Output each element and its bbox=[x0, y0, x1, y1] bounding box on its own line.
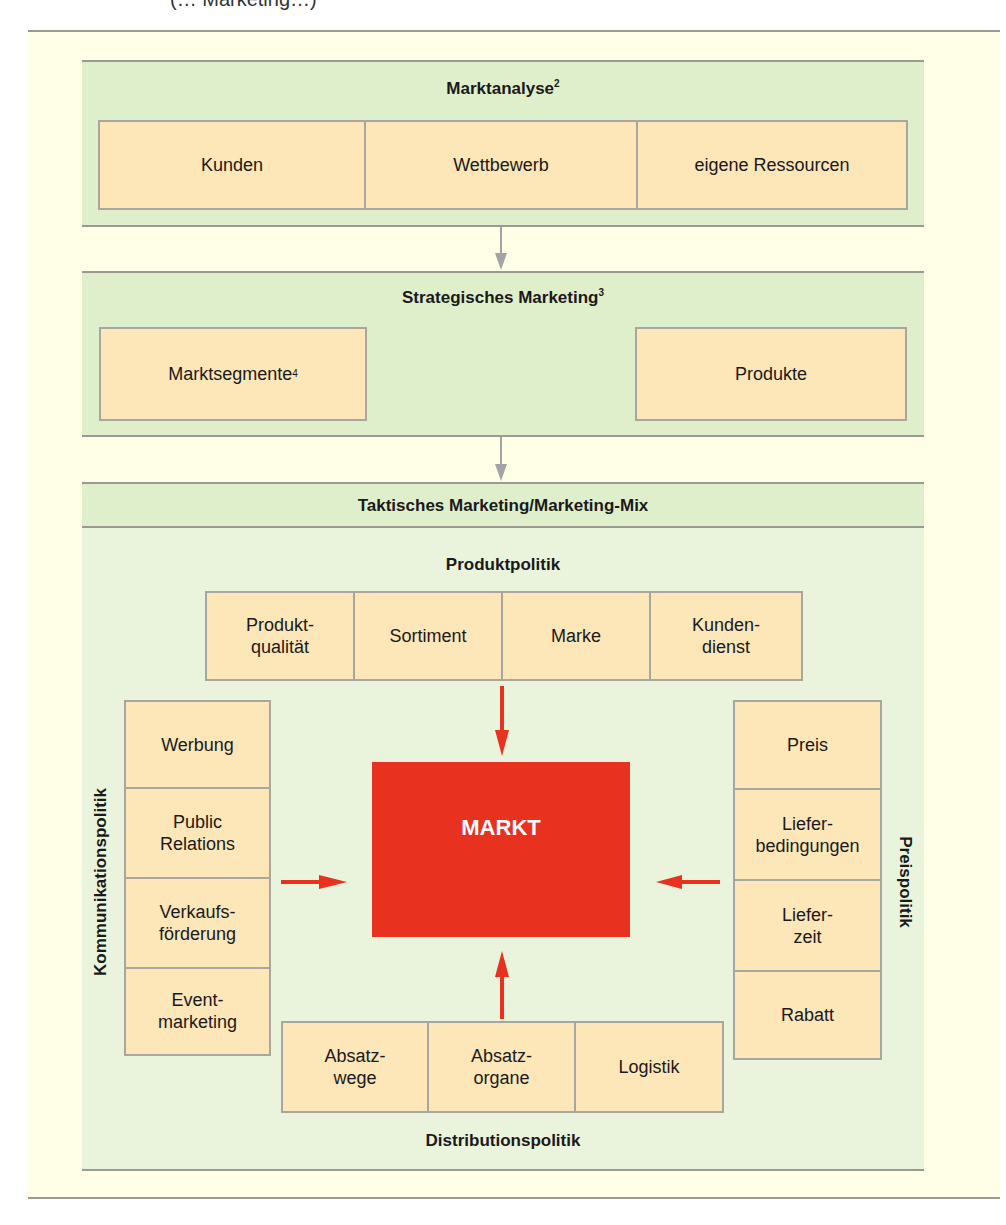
box-logistik: Logistik bbox=[576, 1021, 724, 1113]
taktisch-header: Taktisches Marketing/Marketing-Mix bbox=[82, 482, 924, 528]
box-eventmarketing: Event- marketing bbox=[124, 969, 271, 1056]
box-werbung: Werbung bbox=[124, 700, 271, 789]
box-marke: Marke bbox=[503, 591, 651, 681]
caption-partial: (… Marketing…) bbox=[170, 0, 317, 11]
arrow-up-red-icon bbox=[494, 951, 510, 1019]
box-kundendienst: Kunden- dienst bbox=[651, 591, 803, 681]
preispolitik-title: Preispolitik bbox=[895, 836, 915, 928]
marktanalyse-title: Marktanalyse2 bbox=[82, 78, 924, 99]
arrow-left-red-icon bbox=[656, 874, 720, 890]
produktpolitik-boxes: Produkt- qualität Sortiment Marke Kunden… bbox=[205, 591, 803, 681]
distributionspolitik-boxes: Absatz- wege Absatz- organe Logistik bbox=[281, 1021, 724, 1113]
kommunikationspolitik-title: Kommunikationspolitik bbox=[91, 788, 111, 976]
box-produktqualitaet: Produkt- qualität bbox=[205, 591, 355, 681]
box-produkte: Produkte bbox=[635, 327, 907, 421]
box-sortiment: Sortiment bbox=[355, 591, 503, 681]
strategisch-panel: Strategisches Marketing3 Marktsegmente4 … bbox=[82, 271, 924, 437]
produktpolitik-title: Produktpolitik bbox=[82, 555, 924, 575]
box-marktsegmente: Marktsegmente4 bbox=[99, 327, 367, 421]
taktisch-title: Taktisches Marketing/Marketing-Mix bbox=[82, 496, 924, 516]
box-lieferzeit: Liefer- zeit bbox=[733, 881, 882, 972]
marktanalyse-boxes: Kunden Wettbewerb eigene Ressourcen bbox=[98, 120, 908, 210]
strategisch-title: Strategisches Marketing3 bbox=[82, 287, 924, 308]
markt-box: MARKT bbox=[372, 762, 630, 937]
box-lieferbedingungen: Liefer- bedingungen bbox=[733, 790, 882, 881]
arrow-right-red-icon bbox=[281, 874, 347, 890]
preispolitik-boxes: Preis Liefer- bedingungen Liefer- zeit R… bbox=[733, 700, 882, 1060]
box-public-relations: Public Relations bbox=[124, 789, 271, 879]
box-verkaufsfoerderung: Verkaufs- förderung bbox=[124, 879, 271, 969]
arrow-down-icon bbox=[495, 437, 507, 482]
box-absatzorgane: Absatz- organe bbox=[429, 1021, 576, 1113]
box-wettbewerb: Wettbewerb bbox=[366, 120, 638, 210]
arrow-down-red-icon bbox=[494, 686, 510, 756]
kommunikationspolitik-boxes: Werbung Public Relations Verkaufs- förde… bbox=[124, 700, 271, 1056]
box-absatzwege: Absatz- wege bbox=[281, 1021, 429, 1113]
box-kunden: Kunden bbox=[98, 120, 366, 210]
box-rabatt: Rabatt bbox=[733, 972, 882, 1060]
box-preis: Preis bbox=[733, 700, 882, 790]
distributionspolitik-title: Distributionspolitik bbox=[82, 1131, 924, 1151]
arrow-down-icon bbox=[495, 227, 507, 271]
box-eigene-ressourcen: eigene Ressourcen bbox=[638, 120, 908, 210]
marktanalyse-panel: Marktanalyse2 Kunden Wettbewerb eigene R… bbox=[82, 60, 924, 227]
